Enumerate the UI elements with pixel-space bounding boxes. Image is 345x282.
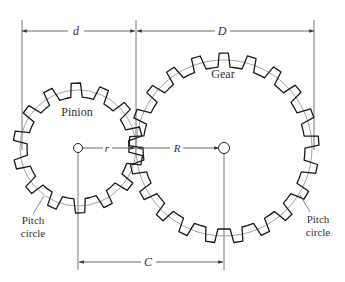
pinion-hub-icon <box>74 144 83 153</box>
C-label: C <box>144 255 153 269</box>
pinion-label: Pinion <box>61 105 92 119</box>
diagram-canvas: d D r R C Pinion Gear Pitch circle Pitch… <box>0 0 345 282</box>
gear-hub-icon <box>219 143 230 154</box>
gear-diagram: d D r R C Pinion Gear Pitch circle Pitch… <box>0 0 345 282</box>
gear-pitch-label-line2: circle <box>306 226 331 238</box>
pinion-pitch-label-line1: Pitch <box>22 214 45 226</box>
dimension-lines <box>22 31 314 262</box>
d-label: d <box>73 24 80 38</box>
pinion-pitch-label-line2: circle <box>21 227 46 239</box>
gear-label: Gear <box>211 67 234 81</box>
R-label: R <box>173 142 181 154</box>
r-label: r <box>105 142 110 154</box>
D-label: D <box>217 24 227 38</box>
gear-pitch-label-line1: Pitch <box>307 213 330 225</box>
extension-lines <box>22 20 314 270</box>
pinion-pitch-leader <box>33 196 44 214</box>
